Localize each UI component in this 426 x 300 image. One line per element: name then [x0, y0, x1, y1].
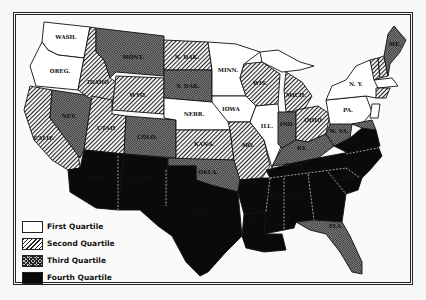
label-ill: ILL.	[261, 123, 273, 129]
state-mass	[374, 78, 398, 88]
label-texas: TEXAS	[192, 210, 213, 216]
label-okla: OKLA.	[198, 169, 218, 175]
label-wash: WASH.	[54, 34, 77, 40]
state-nj	[370, 104, 380, 118]
state-ny	[326, 60, 378, 100]
legend-item-third-quartile: Third Quartile	[22, 252, 132, 269]
legend-item-first-quartile: First Quartile	[22, 218, 132, 235]
label-mich: MICH.	[286, 92, 307, 98]
legend-label: First Quartile	[47, 222, 103, 231]
legend-label: Second Quartile	[47, 239, 115, 248]
label-mont: MONT.	[122, 54, 144, 60]
label-oreg: OREG.	[50, 68, 70, 74]
legend-swatch-hatched	[22, 238, 43, 250]
label-nmex: N. MEX.	[130, 175, 155, 181]
state-me	[384, 26, 406, 76]
legend-swatch-black	[22, 272, 43, 284]
legend-item-fourth-quartile: Fourth Quartile	[22, 269, 132, 286]
label-ariz: ARIZ.	[88, 175, 107, 181]
label-tenn: TENN.	[285, 162, 305, 168]
label-ark: ARK.	[243, 180, 260, 186]
label-calif: CALIF.	[34, 135, 55, 141]
label-sdak: S. DAK.	[176, 83, 200, 89]
legend-swatch-crosshatched	[22, 255, 43, 267]
label-kans: KANS.	[194, 141, 214, 147]
label-ncar: N. CAR.	[340, 155, 364, 161]
label-nev: NEV.	[62, 113, 77, 119]
label-ny: N. Y.	[349, 81, 363, 87]
label-wyo: WYO.	[129, 92, 147, 98]
label-idaho: IDAHO	[87, 79, 109, 85]
label-me: ME.	[389, 41, 401, 47]
label-ohio: OHIO	[304, 117, 322, 123]
label-ind: IND.	[280, 121, 294, 127]
label-colo: COLO.	[137, 134, 157, 140]
label-ala: ALA.	[288, 192, 304, 198]
label-mo: MO.	[242, 142, 255, 148]
label-minn: MINN.	[218, 67, 239, 73]
label-miss: MISS.	[267, 192, 286, 198]
legend-label: Third Quartile	[47, 256, 106, 265]
label-wis: WIS.	[252, 80, 268, 86]
label-la: LA.	[249, 215, 259, 221]
label-scar: S. CAR.	[332, 175, 355, 181]
label-fla: FLA.	[329, 223, 343, 229]
label-ndak: N. DAK.	[175, 54, 200, 60]
label-utah: UTAH	[97, 125, 116, 131]
label-va: VA.	[346, 139, 357, 145]
legend-item-second-quartile: Second Quartile	[22, 235, 132, 252]
label-nebr: NEBR.	[184, 111, 205, 117]
legend-swatch-white	[22, 221, 43, 233]
state-nmex	[118, 154, 168, 210]
state-conn	[376, 88, 390, 98]
label-iowa: IOWA	[222, 106, 240, 112]
label-wva: W. VA.	[328, 128, 349, 134]
label-ky: KY.	[297, 145, 307, 151]
label-pa: PA.	[343, 107, 353, 113]
map-legend: First Quartile Second Quartile Third Qua…	[22, 218, 132, 286]
legend-label: Fourth Quartile	[47, 273, 112, 282]
label-ga: GA.	[316, 189, 327, 195]
